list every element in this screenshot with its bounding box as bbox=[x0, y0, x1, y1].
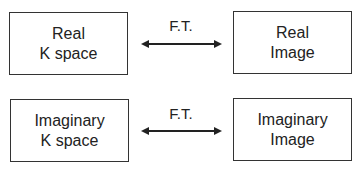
box-label-line2: Image bbox=[270, 130, 314, 150]
double-arrow-icon bbox=[141, 39, 222, 49]
box-label-line1: Real bbox=[276, 23, 309, 43]
imaginary-image-box: Imaginary Image bbox=[233, 98, 352, 161]
box-label-line1: Imaginary bbox=[34, 111, 104, 131]
box-label-line2: K space bbox=[41, 131, 99, 151]
box-label-line1: Imaginary bbox=[257, 110, 327, 130]
fourier-transform-label: F.T. bbox=[141, 17, 221, 34]
real-k-space-box: Real K space bbox=[9, 12, 128, 75]
double-arrow-icon bbox=[141, 126, 222, 136]
box-label-line2: Image bbox=[270, 43, 314, 63]
real-image-box: Real Image bbox=[233, 11, 352, 74]
box-label-line1: Real bbox=[52, 24, 85, 44]
imaginary-k-space-box: Imaginary K space bbox=[10, 99, 129, 162]
box-label-line2: K space bbox=[40, 44, 98, 64]
fourier-transform-label: F.T. bbox=[141, 105, 221, 122]
